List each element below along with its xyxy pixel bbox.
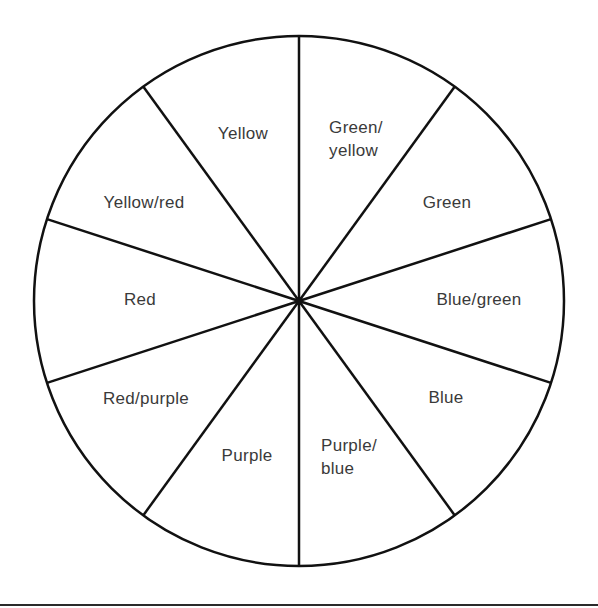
segment-label: Yellow/red: [104, 191, 185, 214]
segment-label: Green: [423, 191, 472, 214]
segment-label: Red: [124, 288, 156, 311]
wheel-center-dot: [295, 297, 303, 305]
spoke-line: [47, 301, 299, 383]
spoke-line: [299, 301, 551, 383]
spoke-line: [47, 219, 299, 301]
segment-label: Yellow: [218, 122, 268, 145]
segment-label: Red/purple: [103, 387, 189, 410]
segment-label: Green/ yellow: [329, 116, 383, 162]
bottom-rule: [0, 604, 598, 606]
segment-label: Blue/green: [436, 288, 521, 311]
segment-label: Blue: [428, 386, 463, 409]
segment-label: Purple: [222, 444, 273, 467]
segment-label: Purple/ blue: [321, 434, 377, 480]
